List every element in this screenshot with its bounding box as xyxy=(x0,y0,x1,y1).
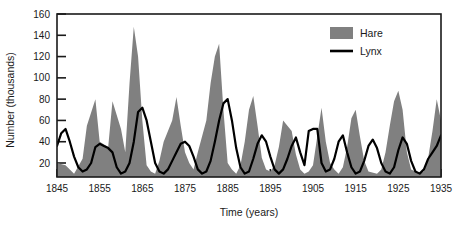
hare-lynx-population-chart: Number (thousands) Time (years) 20406080… xyxy=(0,0,464,236)
x-tick-label: 1915 xyxy=(345,183,368,194)
legend-swatch-hare xyxy=(330,27,353,39)
x-tick-label: 1925 xyxy=(387,183,410,194)
x-tick-label: 1895 xyxy=(259,183,282,194)
x-tick-label: 1905 xyxy=(302,183,325,194)
x-tick-label: 1855 xyxy=(89,183,112,194)
x-tick-label: 1885 xyxy=(217,183,240,194)
y-tick-label: 80 xyxy=(39,94,51,105)
y-tick-label: 60 xyxy=(39,115,51,126)
y-tick-label: 120 xyxy=(33,51,50,62)
x-tick-label: 1935 xyxy=(430,183,453,194)
y-tick-label: 40 xyxy=(39,136,51,147)
y-axis-title: Number (thousands) xyxy=(4,52,16,148)
x-axis-title: Time (years) xyxy=(220,206,279,218)
legend-label-lynx: Lynx xyxy=(360,45,383,57)
x-tick-label: 1875 xyxy=(174,183,197,194)
chart-canvas: Number (thousands) Time (years) 20406080… xyxy=(0,0,464,236)
x-tick-label: 1845 xyxy=(46,183,69,194)
y-tick-label: 100 xyxy=(33,72,50,83)
legend-label-hare: Hare xyxy=(360,27,383,39)
y-tick-label: 160 xyxy=(33,9,50,20)
y-tick-label: 140 xyxy=(33,30,50,41)
y-tick-label: 20 xyxy=(39,158,51,169)
x-tick-label: 1865 xyxy=(131,183,154,194)
